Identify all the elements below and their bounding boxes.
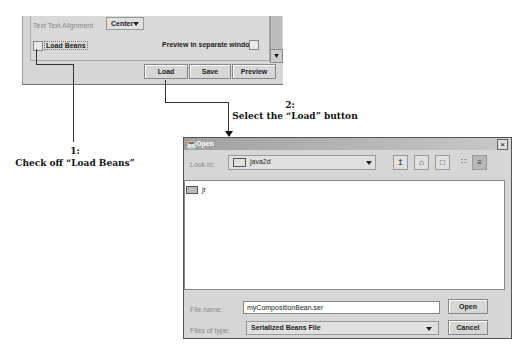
scroll-down-button[interactable]: ▼ — [270, 49, 283, 63]
preview-checkbox[interactable] — [249, 40, 259, 50]
dialog-title: Open — [196, 140, 214, 147]
chevron-down-icon — [426, 327, 432, 331]
load-beans-checkbox[interactable] — [33, 41, 43, 51]
file-list[interactable] — [184, 180, 505, 290]
callout-line — [165, 80, 166, 102]
load-beans-label: Load Beans — [44, 41, 88, 50]
step1-number: 1: — [20, 146, 130, 156]
callout-line — [36, 64, 74, 65]
home-icon[interactable]: ⌂ — [414, 155, 429, 170]
callout-line — [36, 49, 37, 64]
folder-icon — [233, 158, 246, 167]
cancel-button[interactable]: Cancel — [448, 320, 488, 335]
alignment-select[interactable]: Center — [106, 17, 144, 30]
save-button[interactable]: Save — [189, 64, 231, 79]
step2-number: 2: — [240, 100, 340, 110]
file-name-label: File name: — [190, 306, 223, 313]
callout-line — [73, 64, 74, 142]
file-type-label: Files of type: — [190, 327, 230, 334]
up-folder-icon[interactable]: ↥ — [393, 155, 408, 170]
chevron-down-icon — [133, 22, 139, 26]
look-in-value: java2d — [250, 158, 271, 165]
look-in-select[interactable]: java2d — [228, 155, 376, 170]
preview-label: Preview in separate windows — [162, 41, 259, 48]
file-name-input[interactable]: myCompositionBean.ser — [243, 301, 440, 314]
details-view-icon[interactable]: ≡ — [472, 155, 487, 170]
alignment-value: Center — [111, 20, 133, 27]
file-name: jr — [202, 186, 206, 193]
new-folder-icon[interactable]: □ — [435, 155, 450, 170]
dialog-titlebar[interactable] — [184, 138, 509, 150]
file-list-item[interactable]: jr — [186, 186, 206, 194]
close-button[interactable]: × — [497, 139, 508, 150]
step2-text: Select the “Load” button — [230, 111, 360, 121]
open-button[interactable]: Open — [448, 299, 488, 314]
callout-line — [165, 102, 228, 103]
file-type-value: Serialized Beans File — [251, 324, 321, 331]
list-view-icon[interactable]: ∷ — [456, 155, 471, 170]
look-in-label: Look in: — [190, 161, 215, 168]
step1-text: Check off “Load Beans” — [10, 158, 140, 168]
chevron-down-icon — [366, 161, 372, 165]
file-type-select[interactable]: Serialized Beans File — [246, 321, 439, 335]
callout-line — [228, 102, 229, 132]
alignment-label: Text Text Alignment — [33, 22, 93, 29]
folder-icon — [186, 186, 198, 194]
preview-button[interactable]: Preview — [232, 64, 276, 79]
load-button[interactable]: Load — [144, 64, 188, 79]
